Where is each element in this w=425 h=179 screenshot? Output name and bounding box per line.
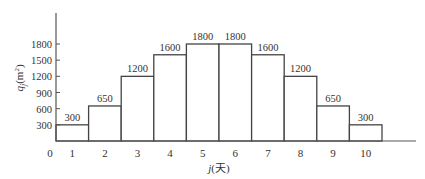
data-label: 300 bbox=[64, 112, 80, 123]
bar-3 bbox=[121, 76, 154, 141]
data-label: 1200 bbox=[290, 63, 311, 74]
x-tick-label: 3 bbox=[135, 147, 141, 159]
y-tick-label: 600 bbox=[36, 104, 52, 115]
x-tick-label: 9 bbox=[330, 147, 336, 159]
x-tick-label: 8 bbox=[298, 147, 304, 159]
bar-9 bbox=[317, 106, 350, 141]
bar-10 bbox=[349, 125, 382, 141]
bar-2 bbox=[89, 106, 122, 141]
origin-label: 0 bbox=[47, 147, 53, 159]
data-label: 1200 bbox=[127, 63, 148, 74]
x-tick-label: 7 bbox=[265, 147, 271, 159]
x-tick-label: 2 bbox=[102, 147, 108, 159]
data-label: 650 bbox=[97, 93, 113, 104]
data-label: 1600 bbox=[160, 42, 181, 53]
x-axis-label: j(天) bbox=[206, 162, 230, 175]
x-tick-label: 5 bbox=[200, 147, 206, 159]
x-tick-label: 6 bbox=[233, 147, 239, 159]
y-axis-label: qj(m2) bbox=[13, 64, 28, 91]
data-label: 1600 bbox=[257, 42, 278, 53]
bar-4 bbox=[154, 55, 187, 141]
data-label: 300 bbox=[358, 112, 374, 123]
x-ticks-group: 12345678910 bbox=[70, 147, 372, 159]
x-tick-label: 10 bbox=[360, 147, 372, 159]
y-tick-label: 300 bbox=[36, 120, 52, 131]
bar-7 bbox=[252, 55, 285, 141]
bar-5 bbox=[186, 44, 219, 141]
bar-1 bbox=[56, 125, 89, 141]
bar-8 bbox=[284, 76, 317, 141]
data-label: 650 bbox=[325, 93, 341, 104]
y-tick-label: 1500 bbox=[31, 55, 52, 66]
data-label: 1800 bbox=[192, 31, 213, 42]
bar-chart: 300650120016001800180016001200650300 300… bbox=[0, 0, 425, 179]
y-tick-label: 1800 bbox=[31, 39, 52, 50]
x-tick-label: 1 bbox=[70, 147, 76, 159]
bar-6 bbox=[219, 44, 252, 141]
x-tick-label: 4 bbox=[167, 147, 173, 159]
data-label: 1800 bbox=[225, 31, 246, 42]
y-tick-label: 900 bbox=[36, 88, 52, 99]
y-tick-label: 1200 bbox=[31, 71, 52, 82]
